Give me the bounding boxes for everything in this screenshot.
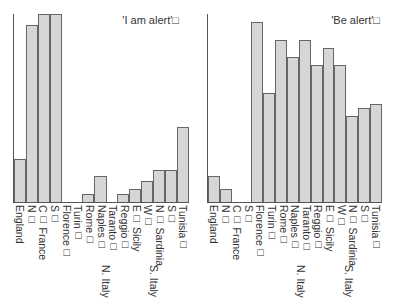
x-tick-label: E□ Sicily xyxy=(130,205,142,305)
bars-left xyxy=(14,14,189,202)
x-tick-label-text: C□ France xyxy=(37,205,48,260)
x-tick-label-text: Florence□ xyxy=(254,205,265,258)
x-tick-label-text: N□ Sardinia xyxy=(347,205,358,266)
bar-left-3 xyxy=(50,14,62,202)
x-tick-label: England xyxy=(207,205,219,305)
x-tick-label: Tunisia□ xyxy=(176,205,188,305)
group-label-n-italy-right: N. Italy xyxy=(295,265,307,298)
group-label-s-italy-left: S. Italy xyxy=(148,265,160,297)
bar-right-9 xyxy=(311,65,323,202)
bar-left-6 xyxy=(82,194,94,202)
x-tick-label-text: S□ xyxy=(166,205,177,224)
x-tick-label-text: Taranto□ xyxy=(107,205,118,252)
x-tick-label: Turin□ xyxy=(71,205,83,305)
bar-right-14 xyxy=(370,104,382,202)
x-tick-label: S□ xyxy=(165,205,177,305)
plot-area-left xyxy=(13,14,189,203)
x-tick-label-text: Naples□ xyxy=(289,205,300,250)
x-tick-label-text: Reggio□ xyxy=(312,205,323,250)
x-tick-label: England xyxy=(13,205,25,305)
chart-title-left: 'I am alert'□ xyxy=(122,14,179,26)
x-tick-label: S□ xyxy=(358,205,370,305)
x-tick-label-text: Florence□ xyxy=(61,205,72,258)
x-tick-label: Rome□ xyxy=(83,205,95,305)
x-tick-label-text: N□ xyxy=(220,205,231,225)
x-tick-label: C□ France xyxy=(36,205,48,305)
bar-right-12 xyxy=(346,116,358,202)
bar-right-10 xyxy=(323,48,335,202)
x-tick-label: E□ Sicily xyxy=(323,205,335,305)
bar-left-13 xyxy=(165,170,177,202)
bar-right-5 xyxy=(263,93,275,202)
x-tick-label-text: N□ Sardinia xyxy=(154,205,165,266)
x-tick-label: Rome□ xyxy=(277,205,289,305)
x-tick-label-text: S□ xyxy=(359,205,370,224)
x-tick-label-text: Turin□ xyxy=(72,205,83,241)
bar-right-4 xyxy=(251,22,263,202)
bar-left-14 xyxy=(177,127,189,202)
group-label-n-italy-left: N. Italy xyxy=(100,265,112,298)
bars-right xyxy=(208,14,382,202)
x-tick-label-text: S□ xyxy=(49,205,60,224)
plot-area-right xyxy=(207,14,382,203)
bar-right-8 xyxy=(299,40,311,202)
x-tick-label-text: Rome□ xyxy=(278,205,289,245)
x-tick-label: N□ xyxy=(25,205,37,305)
x-tick-label-text: S□ xyxy=(243,205,254,224)
x-tick-label-text: Rome□ xyxy=(84,205,95,245)
x-tick-label-text: Taranto□ xyxy=(301,205,312,252)
x-tick-label-text: England xyxy=(208,205,219,244)
x-tick-label: S□ xyxy=(48,205,60,305)
bar-left-9 xyxy=(117,194,129,202)
x-tick-label-text: W□ xyxy=(142,205,153,227)
x-tick-label: Tunisia□ xyxy=(369,205,381,305)
group-label-s-italy-right: S. Italy xyxy=(343,265,355,297)
bar-right-6 xyxy=(275,40,287,202)
x-tick-label-text: W□ xyxy=(336,205,347,227)
x-tick-label: N□ xyxy=(219,205,231,305)
x-tick-label: Reggio□ xyxy=(311,205,323,305)
bar-left-2 xyxy=(38,14,50,202)
x-tick-label-text: N□ xyxy=(26,205,37,225)
x-tick-label: C□ France xyxy=(230,205,242,305)
x-tick-label-text: C□ France xyxy=(231,205,242,260)
bar-right-11 xyxy=(334,65,346,202)
chart-title-right: 'Be alert'□ xyxy=(331,14,380,26)
x-tick-label: S□ xyxy=(242,205,254,305)
x-tick-label-text: E□ Sicily xyxy=(324,205,335,251)
x-tick-label: Florence□ xyxy=(60,205,72,305)
bar-right-13 xyxy=(358,108,370,202)
chart-panel-be-alert: 'Be alert'□ EnglandN□C□ FranceS□Florence… xyxy=(195,0,394,305)
x-tick-label: Turin□ xyxy=(265,205,277,305)
x-tick-label-text: Naples□ xyxy=(96,205,107,250)
x-tick-label: Reggio□ xyxy=(118,205,130,305)
x-tick-label-text: E□ Sicily xyxy=(131,205,142,251)
chart-panel-i-am-alert: 'I am alert'□ EnglandN□C□ FranceS□Floren… xyxy=(0,0,195,305)
x-tick-label-text: England xyxy=(14,205,25,244)
x-tick-label: Florence□ xyxy=(253,205,265,305)
bar-right-1 xyxy=(220,189,232,202)
bar-left-10 xyxy=(129,189,141,202)
x-tick-label-text: Reggio□ xyxy=(119,205,130,250)
bar-left-11 xyxy=(141,181,153,202)
x-tick-label-text: Tunisia□ xyxy=(177,205,188,250)
bar-right-7 xyxy=(287,57,299,202)
bar-left-0 xyxy=(14,159,26,202)
bar-right-0 xyxy=(208,176,220,202)
x-tick-label-text: Turin□ xyxy=(266,205,277,241)
bar-left-1 xyxy=(26,25,38,202)
x-tick-label-text: Tunisia□ xyxy=(370,205,381,250)
bar-left-12 xyxy=(153,170,165,202)
bar-left-7 xyxy=(94,176,106,202)
